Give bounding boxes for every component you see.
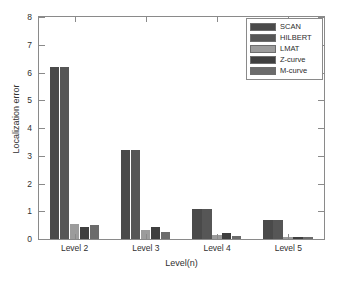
y-axis-tick bbox=[39, 45, 45, 46]
legend-swatch-icon bbox=[250, 56, 276, 64]
x-axis-tick-label: Level 2 bbox=[61, 243, 88, 253]
bar-chart-figure: Localization error 012345678 Level 2Leve… bbox=[0, 0, 345, 285]
y-axis-tick-mirror bbox=[318, 184, 324, 185]
bar bbox=[90, 225, 99, 239]
y-axis-tick-label: 8 bbox=[0, 12, 32, 22]
bar bbox=[121, 150, 130, 239]
legend-swatch-icon bbox=[250, 67, 276, 75]
bar bbox=[222, 233, 231, 239]
legend-item-label: LMAT bbox=[280, 45, 299, 53]
x-axis-tick bbox=[146, 234, 147, 239]
y-axis-tick bbox=[39, 211, 45, 212]
y-axis-tick-mirror bbox=[318, 211, 324, 212]
y-axis-tick bbox=[39, 156, 45, 157]
y-axis-tick-mirror bbox=[318, 128, 324, 129]
x-axis-tick-mirror bbox=[75, 17, 76, 22]
legend-item[interactable]: SCAN bbox=[250, 22, 319, 32]
legend-item[interactable]: LMAT bbox=[250, 44, 319, 54]
bar bbox=[263, 220, 272, 239]
legend-item[interactable]: M-curve bbox=[250, 66, 319, 76]
x-axis-tick-label: Level 3 bbox=[132, 243, 159, 253]
bar bbox=[50, 67, 59, 239]
x-axis-tick-mirror bbox=[146, 17, 147, 22]
legend-swatch-icon bbox=[250, 23, 276, 31]
bar bbox=[161, 232, 170, 239]
y-axis-tick-label: 3 bbox=[0, 151, 32, 161]
y-axis-tick-label: 5 bbox=[0, 95, 32, 105]
bar bbox=[60, 67, 69, 239]
legend: SCANHILBERTLMATZ-curveM-curve bbox=[246, 18, 323, 80]
legend-item-label: M-curve bbox=[280, 67, 307, 75]
y-axis-tick-mirror bbox=[318, 156, 324, 157]
y-axis-tick-label: 2 bbox=[0, 179, 32, 189]
bar bbox=[303, 237, 312, 239]
x-axis-tick-mirror bbox=[217, 17, 218, 22]
legend-item[interactable]: Z-curve bbox=[250, 55, 319, 65]
y-axis-tick bbox=[39, 239, 45, 240]
y-axis-tick-mirror bbox=[318, 239, 324, 240]
y-axis-tick bbox=[39, 73, 45, 74]
bar bbox=[192, 209, 201, 239]
legend-swatch-icon bbox=[250, 34, 276, 42]
legend-item-label: HILBERT bbox=[280, 34, 312, 42]
y-axis-tick bbox=[39, 184, 45, 185]
x-axis-tick-labels: Level 2Level 3Level 4Level 5 bbox=[38, 243, 325, 257]
bar bbox=[151, 227, 160, 239]
x-axis-tick-label: Level 5 bbox=[275, 243, 302, 253]
y-axis-tick-label: 4 bbox=[0, 123, 32, 133]
bar bbox=[202, 209, 211, 239]
legend-item-label: SCAN bbox=[280, 23, 301, 31]
x-axis-tick bbox=[288, 234, 289, 239]
y-axis-tick-label: 1 bbox=[0, 206, 32, 216]
y-axis-tick-label: 7 bbox=[0, 40, 32, 50]
x-axis-tick-label: Level 4 bbox=[203, 243, 230, 253]
legend-item-label: Z-curve bbox=[280, 56, 305, 64]
y-axis-tick bbox=[39, 128, 45, 129]
y-axis-tick-label: 6 bbox=[0, 68, 32, 78]
x-axis-title: Level(n) bbox=[38, 258, 325, 268]
x-axis-tick bbox=[217, 234, 218, 239]
bar bbox=[293, 237, 302, 239]
y-axis-tick-label: 0 bbox=[0, 234, 32, 244]
bar bbox=[273, 220, 282, 239]
y-axis-tick bbox=[39, 17, 45, 18]
legend-swatch-icon bbox=[250, 45, 276, 53]
y-axis-tick bbox=[39, 100, 45, 101]
x-axis-tick bbox=[75, 234, 76, 239]
y-axis-tick-mirror bbox=[318, 100, 324, 101]
bar bbox=[232, 236, 241, 239]
bar bbox=[131, 150, 140, 239]
legend-item[interactable]: HILBERT bbox=[250, 33, 319, 43]
bar bbox=[80, 227, 89, 239]
